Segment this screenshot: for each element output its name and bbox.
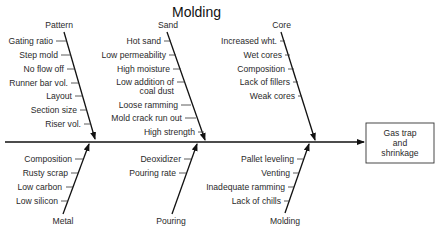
cause-label: Composition (237, 64, 285, 74)
cause-label: High strength (144, 127, 195, 137)
cause-label: Riser vol. (45, 119, 81, 129)
category-label-metal: Metal (52, 216, 73, 226)
effect-box: Gas trap and shrinkage (366, 123, 434, 163)
fishbone-diagram: Molding Gas trap and shrinkage Pattern G… (0, 0, 437, 232)
cause-label: High moisture (117, 64, 170, 74)
cause-label: Pallet leveling (241, 154, 294, 164)
cause-label: Low carbon (18, 182, 63, 192)
cause-label: Inadequate ramming (206, 182, 285, 192)
core-causes: Increased wht. Wet cores Composition Lac… (221, 36, 302, 101)
category-pouring: Pouring Deoxidizer Pouring rate (129, 144, 197, 226)
category-label-molding: Molding (270, 216, 300, 226)
category-label-core: Core (272, 20, 291, 30)
cause-label: No flow off (24, 64, 65, 74)
cause-label: Low permeability (102, 50, 167, 60)
cause-label: Weak cores (250, 91, 295, 101)
diagram-title: Molding (172, 4, 221, 20)
cause-label: Low silicon (16, 196, 58, 206)
category-pattern: Pattern Gating ratio Step mold No flow o… (9, 20, 95, 139)
category-core: Core Increased wht. Wet cores Compositio… (221, 20, 315, 140)
category-label-pattern: Pattern (45, 20, 73, 30)
cause-label: Wet cores (243, 50, 282, 60)
category-molding: Molding Pallet leveling Venting Inadequa… (206, 144, 309, 226)
cause-label: Hot sand (127, 36, 162, 46)
cause-label: Section size (31, 105, 78, 115)
cause-label: Rusty scrap (23, 168, 69, 178)
cause-label: Deoxidizer (140, 154, 181, 164)
category-label-pouring: Pouring (156, 216, 186, 226)
category-label-sand: Sand (158, 20, 178, 30)
cause-label: Venting (261, 168, 290, 178)
cause-label: Mold crack run out (111, 113, 182, 123)
category-metal: Metal Composition Rusty scrap Low carbon… (16, 144, 89, 226)
effect-line-3: shrinkage (381, 148, 418, 158)
effect-line-2: and (393, 138, 408, 148)
pouring-causes: Deoxidizer Pouring rate (129, 154, 191, 178)
molding-causes: Pallet leveling Venting Inadequate rammi… (206, 154, 303, 206)
category-sand: Sand Hot sand Low permeability High mois… (102, 20, 205, 140)
metal-causes: Composition Rusty scrap Low carbon Low s… (16, 154, 83, 206)
cause-label: Composition (24, 154, 72, 164)
cause-label: Increased wht. (221, 36, 277, 46)
cause-label: Runner bar vol. (9, 78, 68, 88)
cause-label: Lack of chills (232, 196, 281, 206)
cause-label: Pouring rate (129, 168, 176, 178)
sand-causes: Hot sand Low permeability High moisture … (102, 36, 204, 137)
effect-line-1: Gas trap (384, 128, 417, 138)
cause-label: Layout (46, 91, 72, 101)
cause-label: coal dust (140, 86, 175, 96)
cause-label: Loose ramming (119, 100, 178, 110)
cause-label: Gating ratio (9, 36, 54, 46)
cause-label: Lack of fillers (240, 77, 290, 87)
cause-label: Step mold (19, 50, 58, 60)
